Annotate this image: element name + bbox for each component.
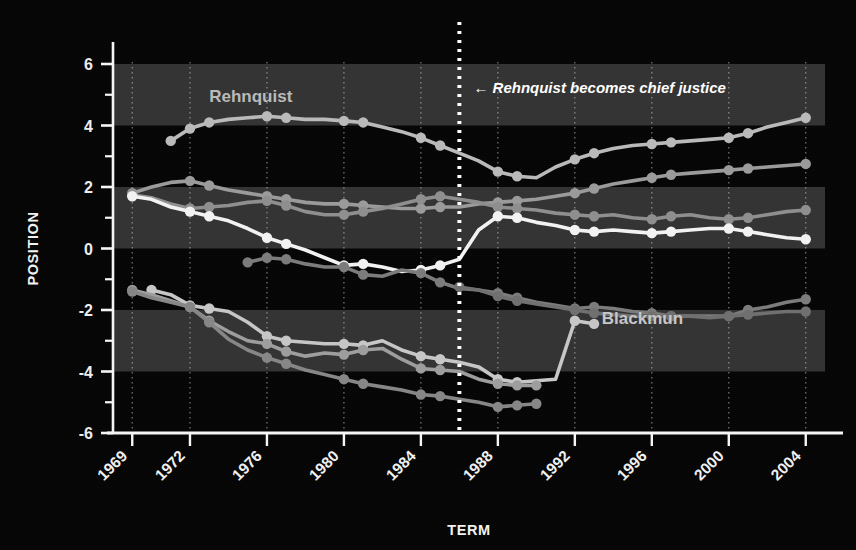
series-point (435, 140, 445, 150)
series-point (281, 336, 291, 346)
x-tick-label: 1988 (460, 447, 497, 484)
series-point (647, 228, 657, 238)
series-point (512, 380, 522, 390)
series-point (589, 183, 599, 193)
series-point (743, 213, 753, 223)
series-point (570, 316, 580, 326)
series-point (435, 354, 445, 364)
series-point (358, 259, 368, 269)
series-point (589, 319, 599, 329)
series-point (743, 226, 753, 236)
series-point (416, 203, 426, 213)
annotation-label: ← Rehnquist becomes chief justice (473, 79, 726, 96)
series-point (435, 202, 445, 212)
series-point (512, 296, 522, 306)
series-point (493, 166, 503, 176)
series-point (666, 170, 676, 180)
series-point (570, 225, 580, 235)
series-point (339, 349, 349, 359)
series-point (435, 391, 445, 401)
y-tick-label: 4 (84, 118, 93, 135)
y-tick-label: 2 (84, 179, 93, 196)
series-point (589, 211, 599, 221)
series-point (204, 317, 214, 327)
x-tick-label: 1992 (537, 447, 573, 483)
series-point (204, 180, 214, 190)
x-axis-title: TERM (447, 522, 490, 538)
series-point (204, 303, 214, 313)
series-point (243, 257, 253, 267)
series-point (743, 163, 753, 173)
series-point (185, 123, 195, 133)
x-tick-label: 2004 (767, 447, 804, 484)
series-point (339, 339, 349, 349)
series-label-blackmun: Blackmun (602, 309, 683, 328)
chart-figure: RehnquistBlackmun← Rehnquist becomes chi… (0, 0, 856, 550)
series-point (358, 117, 368, 127)
series-point (724, 165, 734, 175)
series-point (358, 379, 368, 389)
series-point (570, 305, 580, 315)
series-point (281, 239, 291, 249)
series-point (435, 191, 445, 201)
series-point (743, 128, 753, 138)
series-point (262, 233, 272, 243)
series-point (531, 380, 541, 390)
series-point (416, 389, 426, 399)
series-point (493, 291, 503, 301)
series-point (281, 346, 291, 356)
series-line (248, 258, 806, 316)
series-point (127, 286, 137, 296)
series-point (531, 399, 541, 409)
series-point (801, 234, 811, 244)
series-point (339, 209, 349, 219)
series-point (666, 137, 676, 147)
series-point (724, 311, 734, 321)
series-point (801, 306, 811, 316)
series-point (166, 136, 176, 146)
series-point (204, 202, 214, 212)
series-point (493, 402, 503, 412)
series-point (570, 154, 580, 164)
series-point (589, 308, 599, 318)
series-point (185, 176, 195, 186)
series-point (647, 214, 657, 224)
series-point (281, 359, 291, 369)
series-point (127, 191, 137, 201)
line-chart-svg: RehnquistBlackmun← Rehnquist becomes chi… (0, 0, 856, 550)
y-axis-ticks: 6420-2-4-6 (79, 56, 113, 442)
x-axis-ticks: 1969197219761980198419881992199620002004 (94, 433, 806, 484)
series-point (493, 202, 503, 212)
series-point (185, 206, 195, 216)
series-point (435, 260, 445, 270)
series-point (416, 133, 426, 143)
x-tick-label: 2000 (691, 447, 727, 483)
chart-band (113, 310, 825, 372)
series-point (512, 203, 522, 213)
series-point (339, 199, 349, 209)
series-point (339, 262, 349, 272)
x-tick-label: 1980 (306, 447, 342, 483)
series-point (570, 209, 580, 219)
series-point (647, 173, 657, 183)
series-point (204, 211, 214, 221)
y-axis-title: POSITION (25, 211, 41, 285)
series-point (262, 111, 272, 121)
series-point (262, 196, 272, 206)
x-tick-label: 1984 (383, 447, 420, 484)
series-point (647, 139, 657, 149)
series-point (262, 352, 272, 362)
series-point (416, 194, 426, 204)
series-point (724, 133, 734, 143)
series-point (493, 379, 503, 389)
series-point (416, 363, 426, 373)
series-point (416, 268, 426, 278)
series-label-rehnquist: Rehnquist (209, 87, 292, 106)
x-tick-label: 1972 (152, 447, 188, 483)
y-tick-label: 0 (84, 241, 93, 258)
series-point (801, 205, 811, 215)
series-point (493, 211, 503, 221)
series-point (358, 269, 368, 279)
y-tick-label: -2 (79, 302, 93, 319)
series-point (204, 117, 214, 127)
